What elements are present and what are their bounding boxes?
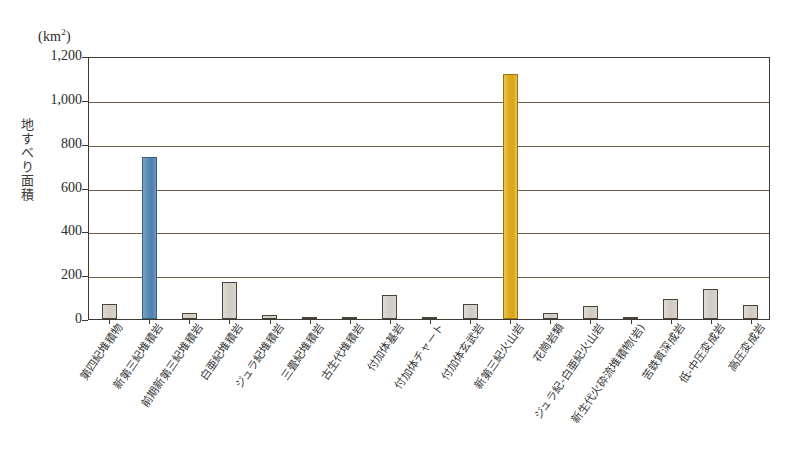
bar[interactable] xyxy=(663,299,678,319)
y-axis-tick-label: 1,200 xyxy=(26,48,82,64)
x-axis-tick-label: 高圧変成岩 xyxy=(726,322,767,374)
bar-slot[interactable] xyxy=(209,58,249,319)
y-axis-unit-exponent: 2 xyxy=(61,27,66,37)
bar-slot[interactable] xyxy=(370,58,410,319)
x-axis-tick-label: 新生代火砕流堆積物(岩) xyxy=(570,322,648,426)
bar-slot[interactable] xyxy=(290,58,330,319)
y-axis-unit-text: km xyxy=(43,29,61,44)
y-axis-unit-label: (km2) xyxy=(38,27,71,45)
bar-slot[interactable] xyxy=(490,58,530,319)
y-axis-tick-labels: 1,2001,0008006004002000 xyxy=(22,57,82,320)
bar-slot[interactable] xyxy=(611,58,651,319)
bar[interactable] xyxy=(703,289,718,319)
bar-series xyxy=(89,58,769,319)
bar[interactable] xyxy=(142,157,157,319)
bar[interactable] xyxy=(743,305,758,319)
y-axis-tick-label: 200 xyxy=(26,267,82,283)
bar-slot[interactable] xyxy=(330,58,370,319)
bar-slot[interactable] xyxy=(570,58,610,319)
chart-root: (km2) 地すべり面積 1,2001,0008006004002000 第四紀… xyxy=(0,0,794,473)
plot-area xyxy=(88,57,770,320)
bar-slot[interactable] xyxy=(450,58,490,319)
bar[interactable] xyxy=(382,295,397,319)
bar-slot[interactable] xyxy=(731,58,771,319)
bar[interactable] xyxy=(583,306,598,319)
y-axis-tick-label: 0 xyxy=(26,311,82,327)
bar[interactable] xyxy=(102,304,117,319)
y-axis-tick-label: 600 xyxy=(26,180,82,196)
bar[interactable] xyxy=(222,282,237,319)
bar-slot[interactable] xyxy=(691,58,731,319)
bar-slot[interactable] xyxy=(249,58,289,319)
bar-slot[interactable] xyxy=(530,58,570,319)
bar-slot[interactable] xyxy=(169,58,209,319)
x-axis-tick-label: 花崗岩類 xyxy=(532,322,567,365)
y-axis-tick-label: 800 xyxy=(26,136,82,152)
y-axis-tick-label: 1,000 xyxy=(26,92,82,108)
bar-slot[interactable] xyxy=(89,58,129,319)
x-axis-tick-labels: 第四紀堆積物新第三紀堆積岩前期新第三紀堆積岩白亜紀堆積岩ジュラ紀堆積岩三畳紀堆積… xyxy=(88,322,770,472)
x-axis-tick-label: 古生代堆積岩 xyxy=(319,322,367,383)
bar-slot[interactable] xyxy=(129,58,169,319)
x-axis-tick-label: 付加体基岩 xyxy=(365,322,406,374)
y-axis-tick-mark xyxy=(82,320,88,321)
y-axis-tick-label: 400 xyxy=(26,223,82,239)
bar[interactable] xyxy=(503,74,518,319)
bar-slot[interactable] xyxy=(410,58,450,319)
bar[interactable] xyxy=(463,304,478,319)
bar-slot[interactable] xyxy=(651,58,691,319)
